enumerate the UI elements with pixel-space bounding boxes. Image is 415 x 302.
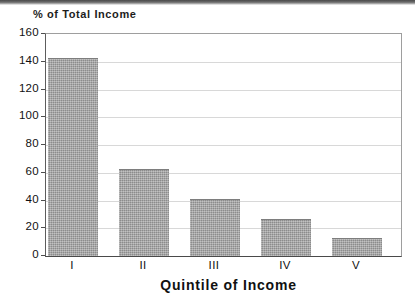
x-axis-title: Quintile of Income	[0, 277, 415, 293]
bar-IV	[261, 219, 311, 256]
x-axis-tick-label-V: V	[331, 259, 381, 271]
plot-area	[45, 33, 402, 257]
scan-artifact-band	[0, 0, 415, 5]
gridline	[46, 117, 401, 118]
gridline	[46, 145, 401, 146]
x-axis-tick-label-III: III	[189, 259, 239, 271]
y-axis-tick-label: 120	[3, 82, 39, 94]
x-axis-tick-label-IV: IV	[260, 259, 310, 271]
x-axis-tick-label-I: I	[47, 259, 97, 271]
y-axis-tick-labels: 020406080100120140160	[0, 0, 39, 302]
y-axis-tick-label: 40	[3, 193, 39, 205]
gridline	[46, 90, 401, 91]
y-axis-tick-label: 20	[3, 220, 39, 232]
y-axis-tick-label: 160	[3, 26, 39, 38]
y-axis-tick-label: 100	[3, 109, 39, 121]
gridline	[46, 62, 401, 63]
chart-figure: % of Total Income 020406080100120140160 …	[0, 0, 415, 302]
gridline	[46, 173, 401, 174]
bar-II	[119, 169, 169, 256]
y-axis-tick-label: 60	[3, 165, 39, 177]
bar-III	[190, 199, 240, 256]
y-axis-tick-label: 80	[3, 137, 39, 149]
x-axis-tick-label-II: II	[118, 259, 168, 271]
bar-I	[48, 58, 98, 256]
y-axis-title: % of Total Income	[33, 8, 137, 20]
bar-V	[332, 238, 382, 256]
y-axis-tick-label: 0	[3, 248, 39, 260]
y-axis-tick-label: 140	[3, 54, 39, 66]
